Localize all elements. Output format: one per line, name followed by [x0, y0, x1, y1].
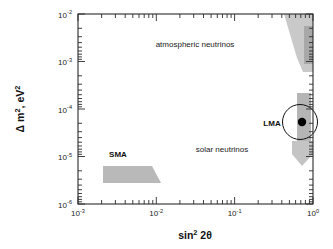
- x-axis-title: sin2 2θ: [178, 228, 212, 241]
- neutrino-oscillation-parameter-plot: 10-3 10-2 10-1 100 10-2 10-3 10-4 10-5 1…: [0, 0, 333, 249]
- x-tick-labels: 10-3 10-2 10-1 100: [71, 208, 319, 218]
- y-axis-title-mid: , eV: [14, 90, 26, 109]
- plot-canvas: 10-3 10-2 10-1 100 10-2 10-3 10-4 10-5 1…: [0, 0, 333, 249]
- x-axis-title-rest: 2θ: [197, 229, 212, 241]
- x-tick-exponent-0: -3: [80, 208, 85, 214]
- x-tick-exponent-3: 0: [316, 208, 319, 214]
- x-tick-exponent-2: -1: [237, 208, 242, 214]
- y-tick-label-2: 10-4: [58, 104, 72, 114]
- x-tick-label-3: 100: [307, 208, 319, 218]
- y-axis-title: Δ m2, eV2: [13, 86, 26, 133]
- y-tick-exponent-1: -3: [67, 57, 72, 63]
- y-tick-label-4: 10-6: [58, 199, 72, 209]
- atmospheric-neutrinos-core: [304, 26, 313, 64]
- y-tick-exponent-4: -6: [67, 199, 72, 205]
- y-axis-title-exp2: 2: [13, 86, 22, 90]
- y-tick-label-3: 10-5: [58, 152, 72, 162]
- annotation-solar-neutrinos: solar neutrinos: [196, 145, 248, 154]
- x-tick-label-2: 10-1: [228, 208, 242, 218]
- y-tick-exponent-3: -5: [67, 152, 72, 158]
- annotation-sma: SMA: [109, 150, 127, 159]
- y-tick-label-0: 10-2: [58, 9, 72, 19]
- y-tick-exponent-2: -4: [67, 104, 72, 110]
- x-tick-label-0: 10-3: [71, 208, 85, 218]
- annotation-atmospheric-neutrinos: atmospheric neutrinos: [156, 40, 235, 49]
- y-tick-labels: 10-2 10-3 10-4 10-5 10-6: [58, 9, 72, 209]
- y-tick-label-1: 10-3: [58, 57, 72, 67]
- lma-solar-band: [297, 93, 311, 141]
- sma-region: [103, 166, 161, 183]
- x-tick-exponent-1: -2: [158, 208, 163, 214]
- annotation-lma: LMA: [263, 119, 281, 128]
- lma-best-fit-point: [298, 118, 306, 126]
- y-tick-exponent-0: -2: [67, 9, 72, 15]
- x-tick-label-1: 10-2: [149, 208, 163, 218]
